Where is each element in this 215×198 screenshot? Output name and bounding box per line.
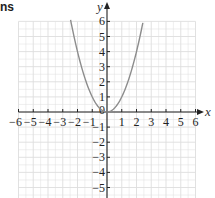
- y-tick-label: 5: [99, 30, 105, 44]
- x-tick-label: −3: [53, 115, 66, 129]
- parabola-chart: −6−5−4−3−2−1123456−5−4−3−2−11234560 x y: [0, 0, 215, 198]
- x-tick-label: 5: [178, 115, 184, 129]
- x-tick-label: 2: [134, 115, 140, 129]
- x-tick-label: 3: [148, 115, 154, 129]
- y-tick-label: −3: [92, 150, 105, 164]
- y-tick-label: 2: [99, 75, 105, 89]
- y-tick-label: −1: [92, 120, 105, 134]
- x-tick-label: −2: [68, 115, 81, 129]
- x-tick-label: 4: [163, 115, 169, 129]
- y-tick-label: −4: [92, 165, 105, 179]
- y-tick-label: 4: [99, 45, 105, 59]
- y-tick-label: 3: [99, 60, 105, 74]
- x-axis-label: x: [204, 104, 211, 119]
- y-tick-label: −5: [92, 181, 105, 195]
- axes: [19, 2, 205, 198]
- x-tick-label: −5: [24, 115, 37, 129]
- y-tick-label: 6: [99, 14, 105, 28]
- x-tick-label: −4: [39, 115, 52, 129]
- x-tick-label: 6: [193, 115, 199, 129]
- y-axis-label: y: [95, 0, 103, 14]
- y-tick-label: 1: [99, 90, 105, 104]
- x-tick-label: −6: [9, 115, 22, 129]
- x-tick-label: 1: [119, 115, 125, 129]
- y-tick-label: −2: [92, 135, 105, 149]
